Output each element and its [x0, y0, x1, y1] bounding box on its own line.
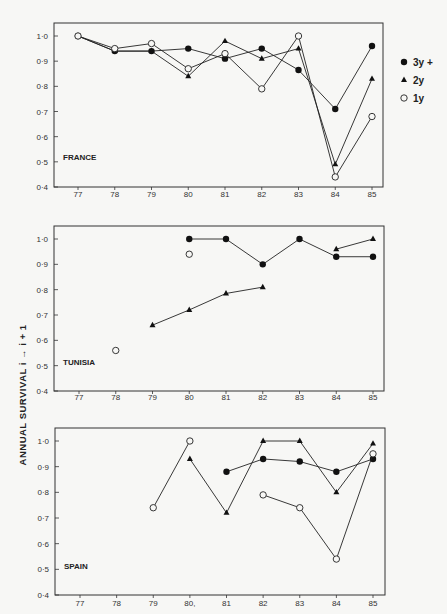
country-label: TUNISIA — [63, 358, 95, 367]
filled-triangle-marker — [332, 161, 338, 166]
filled-triangle-marker — [296, 45, 302, 50]
x-tick-label: 80 — [184, 190, 193, 199]
series-line — [336, 239, 373, 249]
legend-label: 3y + — [413, 57, 433, 68]
y-tick-label: 0·8 — [36, 82, 48, 91]
open-circle-marker — [112, 45, 118, 51]
open-circle-marker — [333, 556, 339, 562]
y-tick-label: 0·6 — [36, 336, 48, 345]
filled-circle-marker — [259, 45, 265, 51]
filled-triangle-marker — [370, 440, 376, 445]
filled-circle-marker — [260, 456, 266, 462]
series-line — [153, 287, 263, 325]
x-tick-label: 82 — [259, 599, 268, 608]
filled-triangle-marker — [222, 38, 228, 43]
y-tick-label: 0·4 — [37, 591, 49, 600]
open-circle-marker — [295, 33, 301, 39]
y-tick-label: 0·7 — [36, 311, 48, 320]
open-circle-marker — [297, 505, 303, 511]
x-tick-label: 78 — [112, 599, 121, 608]
x-tick-label: 82 — [258, 393, 267, 402]
filled-triangle-marker — [401, 77, 407, 82]
series-line — [189, 239, 373, 264]
y-tick-label: 1·0 — [36, 32, 48, 41]
y-tick-label: 0·4 — [36, 183, 48, 192]
x-tick-label: 84 — [332, 393, 341, 402]
filled-circle-marker — [401, 59, 407, 65]
y-tick-label: 0·5 — [36, 158, 48, 167]
series-line — [263, 454, 373, 559]
x-tick-label: 79 — [149, 599, 158, 608]
series-3y-plus — [75, 33, 375, 112]
country-label: SPAIN — [64, 562, 88, 571]
y-tick-label: 0·7 — [37, 514, 49, 523]
series-line — [190, 441, 373, 513]
open-circle-marker — [401, 95, 407, 101]
y-tick-label: 0·8 — [37, 488, 49, 497]
open-circle-marker — [260, 492, 266, 498]
y-tick-label: 0·9 — [36, 260, 48, 269]
series-1y — [113, 251, 193, 354]
open-circle-marker — [369, 113, 375, 119]
filled-circle-marker — [369, 43, 375, 49]
open-circle-marker — [185, 66, 191, 72]
open-circle-marker — [113, 347, 119, 353]
filled-circle-marker — [260, 261, 266, 267]
x-tick-label: 81 — [222, 599, 231, 608]
open-circle-marker — [332, 174, 338, 180]
x-tick-label: 84 — [331, 190, 340, 199]
x-tick-label: 78 — [110, 190, 119, 199]
open-circle-marker — [370, 451, 376, 457]
x-tick-label: 78 — [111, 393, 120, 402]
filled-circle-marker — [296, 236, 302, 242]
filled-circle-marker — [185, 45, 191, 51]
y-tick-label: 0·8 — [36, 286, 48, 295]
open-circle-marker — [187, 438, 193, 444]
x-tick-label: 82 — [257, 190, 266, 199]
x-tick-label: 77 — [74, 190, 83, 199]
filled-triangle-marker — [369, 75, 375, 80]
y-axis-title: ANNUAL SURVIVAL i → i + 1 — [17, 324, 28, 465]
y-tick-label: 0·6 — [36, 133, 48, 142]
legend-label: 2y — [413, 75, 425, 86]
x-tick-label: 80, — [184, 599, 195, 608]
filled-triangle-marker — [187, 456, 193, 461]
x-tick-label: 81 — [222, 393, 231, 402]
y-tick-label: 0·4 — [36, 387, 48, 396]
x-tick-label: 77 — [75, 393, 84, 402]
x-tick-label: 85 — [368, 190, 377, 199]
filled-circle-marker — [186, 236, 192, 242]
filled-circle-marker — [333, 469, 339, 475]
open-circle-marker — [186, 251, 192, 257]
series-1y — [75, 33, 375, 180]
x-tick-label: 84 — [332, 599, 341, 608]
y-tick-label: 0·5 — [36, 362, 48, 371]
panel-france: 0·40·50·60·70·80·91·0777879808182838485F… — [36, 23, 383, 199]
filled-circle-marker — [297, 458, 303, 464]
open-circle-marker — [150, 505, 156, 511]
legend-label: 1y — [413, 93, 425, 104]
series-line — [153, 441, 190, 508]
x-tick-label: 83 — [295, 393, 304, 402]
legend-group: 3y +2y1y — [401, 57, 433, 104]
filled-circle-marker — [333, 254, 339, 260]
filled-circle-marker — [332, 106, 338, 112]
y-tick-label: 1·0 — [37, 437, 49, 446]
series-2y — [187, 438, 376, 515]
filled-circle-marker — [223, 236, 229, 242]
x-tick-label: 81 — [221, 190, 230, 199]
filled-triangle-marker — [297, 438, 303, 443]
open-circle-marker — [148, 40, 154, 46]
series-3y-plus — [223, 456, 376, 475]
y-tick-label: 0·6 — [37, 540, 49, 549]
x-tick-label: 79 — [147, 190, 156, 199]
figure: 0·40·50·60·70·80·91·0777879808182838485F… — [0, 0, 447, 614]
x-tick-label: 79 — [148, 393, 157, 402]
x-tick-label: 83 — [294, 190, 303, 199]
series-line — [78, 36, 372, 109]
open-circle-marker — [222, 50, 228, 56]
country-label: FRANCE — [63, 153, 97, 162]
filled-circle-marker — [295, 67, 301, 73]
panel-tunisia: 0·40·50·60·70·80·91·0777879808182838485T… — [36, 226, 384, 402]
panel-spain: 0·40·50·60·70·80·91·077787980,8182838485… — [37, 428, 385, 608]
